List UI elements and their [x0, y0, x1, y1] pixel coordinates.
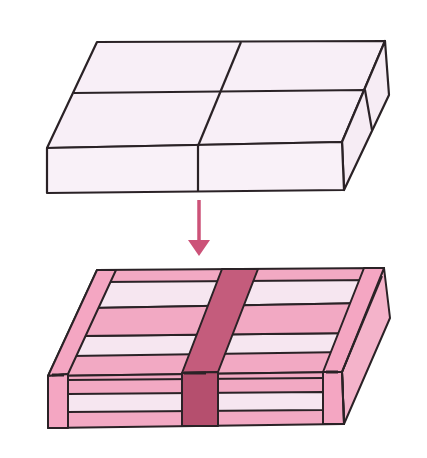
- top-block-front-face: [47, 142, 344, 193]
- illustration-stage: [0, 0, 427, 458]
- down-arrow-icon: [188, 200, 210, 256]
- top-block: [47, 41, 389, 193]
- top-block-top-face: [47, 41, 385, 148]
- bottom-block: [48, 268, 390, 428]
- right-edge-strap-front: [323, 372, 344, 424]
- left-edge-strap-front: [48, 374, 68, 428]
- center-strap-front: [182, 372, 218, 426]
- packing-diagram: [0, 0, 427, 458]
